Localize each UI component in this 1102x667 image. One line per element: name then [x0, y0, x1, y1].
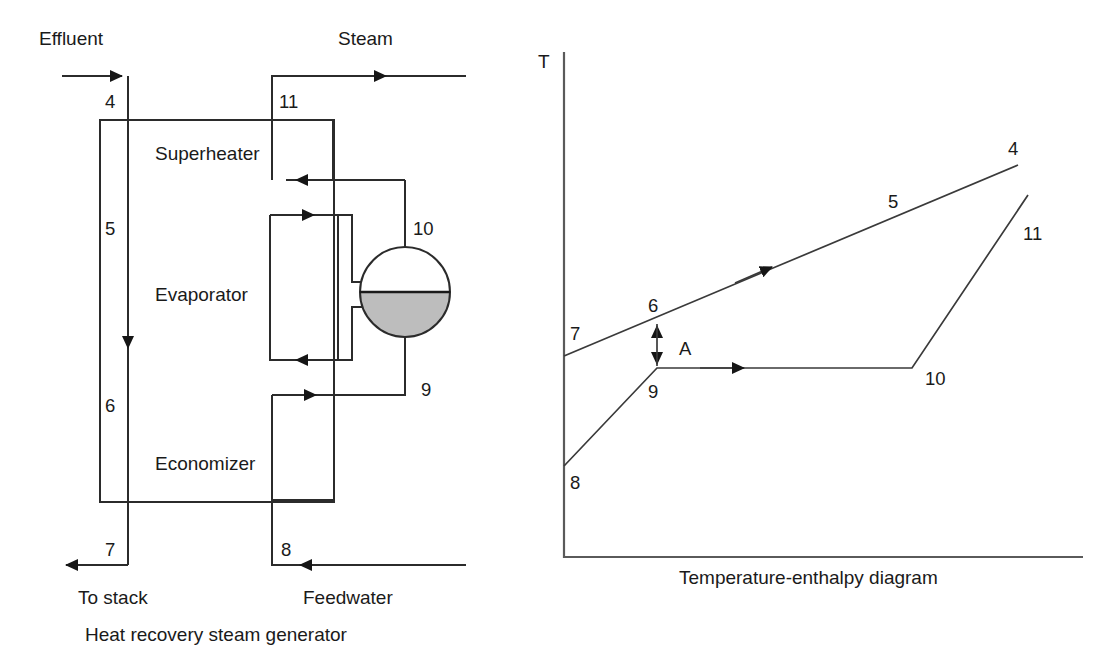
to-stack-label: To stack: [78, 587, 148, 608]
hrsg-point-9: 9: [421, 379, 431, 400]
economizer-coil: [272, 395, 334, 500]
th-y-axis-label: T: [538, 51, 550, 72]
drum-water-level-fill: [360, 292, 450, 337]
th-pinch-label: A: [679, 338, 692, 359]
steam-drum: [360, 247, 450, 337]
th-axes: [564, 52, 1083, 557]
th-point-7: 7: [570, 323, 580, 344]
figure-canvas: Effluent Steam Superheater Evaporator Ec…: [0, 0, 1102, 667]
th-point-8: 8: [570, 472, 580, 493]
th-point-10: 10: [925, 368, 946, 389]
hrsg-point-10: 10: [413, 218, 434, 239]
hrsg-point-8: 8: [281, 539, 291, 560]
th-point-4: 4: [1008, 138, 1018, 159]
economizer-to-drum-line: [334, 337, 405, 395]
drum-vapor-space: [360, 247, 450, 292]
hrsg-point-11: 11: [279, 91, 298, 112]
th-point-6: 6: [648, 295, 658, 316]
effluent-label: Effluent: [39, 28, 104, 49]
hrsg-caption: Heat recovery steam generator: [85, 624, 348, 645]
th-point-5: 5: [888, 191, 898, 212]
feedwater-label: Feedwater: [303, 587, 393, 608]
evaporator-to-drum-riser: [338, 215, 366, 282]
economizer-label: Economizer: [155, 453, 256, 474]
hrsg-point-5: 5: [105, 218, 115, 239]
water-line-8-11: [564, 195, 1028, 466]
evaporator-coil: [270, 215, 338, 360]
hrsg-point-4: 4: [105, 91, 115, 112]
superheater-label: Superheater: [155, 143, 260, 164]
th-caption: Temperature-enthalpy diagram: [679, 567, 938, 588]
superheater-coil: [272, 120, 333, 180]
figure-root: Effluent Steam Superheater Evaporator Ec…: [0, 0, 1102, 667]
th-diagram: T 4 5 11 6 7 A 9 10 8 Temperature-enthal…: [538, 51, 1083, 588]
drum-to-evaporator-downcomer: [338, 307, 366, 360]
hrsg-point-6: 6: [105, 395, 115, 416]
gas-line-direction-arrow: [735, 267, 772, 283]
evaporator-label: Evaporator: [155, 284, 249, 305]
gas-line-4-7: [564, 165, 1018, 356]
steam-label: Steam: [338, 28, 393, 49]
feedwater-line: [272, 500, 466, 565]
th-point-9: 9: [648, 381, 658, 402]
steam-outlet-line: [272, 76, 466, 120]
hrsg-casing: [100, 120, 334, 502]
hrsg-schematic: Effluent Steam Superheater Evaporator Ec…: [39, 28, 466, 645]
th-point-11: 11: [1023, 223, 1042, 244]
hrsg-point-7: 7: [105, 539, 115, 560]
